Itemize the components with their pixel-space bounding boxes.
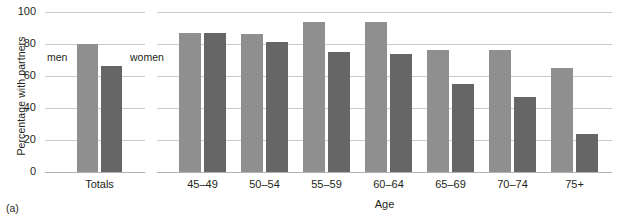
bar-men xyxy=(303,22,325,172)
bars-totals xyxy=(45,12,145,172)
bar-men xyxy=(489,50,511,172)
x-tick-label: 55–59 xyxy=(292,178,362,190)
bar-women xyxy=(576,134,598,172)
gridline xyxy=(45,172,145,173)
bar-men xyxy=(179,33,201,172)
bar-men xyxy=(77,44,98,172)
y-tick-label: 80 xyxy=(8,38,36,49)
x-tick-label: 50–54 xyxy=(230,178,300,190)
bar-women xyxy=(266,42,288,172)
bar-group xyxy=(303,12,350,172)
bar-men xyxy=(365,22,387,172)
x-tick-label: 70–74 xyxy=(478,178,548,190)
bar-women xyxy=(514,97,536,172)
cropped-title-remnant xyxy=(18,0,318,5)
gridline xyxy=(157,172,612,173)
bar-men xyxy=(427,50,449,172)
legend-label-women: women xyxy=(130,51,164,63)
bar-group xyxy=(489,12,536,172)
figure-index-label: (a) xyxy=(6,202,19,214)
bar-women xyxy=(101,66,122,172)
plot-panel-age xyxy=(157,12,612,172)
y-tick-label: 100 xyxy=(8,6,36,17)
bar-group xyxy=(179,12,226,172)
bar-men xyxy=(241,34,263,172)
x-tick-label: Totals xyxy=(65,178,135,190)
bar-group xyxy=(241,12,288,172)
bars-age xyxy=(157,12,612,172)
y-tick-label: 20 xyxy=(8,134,36,145)
bar-women xyxy=(328,52,350,172)
bar-women xyxy=(204,33,226,172)
x-tick-label: 45–49 xyxy=(168,178,238,190)
figure-panel-a: Percentage with partners 020406080100 me… xyxy=(0,0,622,224)
y-tick-label: 60 xyxy=(8,70,36,81)
legend-label-men: men xyxy=(47,51,67,63)
bar-women xyxy=(452,84,474,172)
x-tick-label: 65–69 xyxy=(416,178,486,190)
bar-group xyxy=(551,12,598,172)
bar-group xyxy=(365,12,412,172)
y-tick-label: 0 xyxy=(8,166,36,177)
bar-women xyxy=(390,54,412,172)
x-axis-title: Age xyxy=(157,198,612,210)
y-tick-label: 40 xyxy=(8,102,36,113)
bar-group xyxy=(77,12,122,172)
x-tick-label: 60–64 xyxy=(354,178,424,190)
plot-panel-totals xyxy=(45,12,145,172)
bar-group xyxy=(427,12,474,172)
x-tick-label: 75+ xyxy=(540,178,610,190)
bar-men xyxy=(551,68,573,172)
